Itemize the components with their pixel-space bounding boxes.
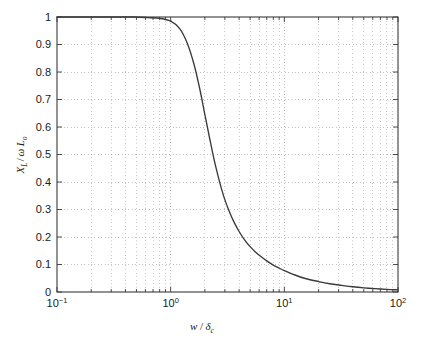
y-tick-label: 0.5 [36, 148, 51, 160]
y-tick-label: 0.1 [36, 258, 51, 270]
y-tick-label: 0 [45, 286, 51, 298]
y-tick-label: 0.4 [36, 176, 51, 188]
y-tick-label: 0.6 [36, 121, 51, 133]
y-axis-title-l-subscript: o [20, 136, 29, 140]
y-tick-label: 0.9 [36, 38, 51, 50]
y-tick-label: 1 [45, 11, 51, 23]
y-tick-label: 0.7 [36, 93, 51, 105]
y-axis-title-x-subscript: L [20, 163, 29, 168]
y-tick-label: 0.2 [36, 231, 51, 243]
y-axis-title-omega: ω [14, 149, 26, 157]
figure-background [0, 0, 424, 342]
y-tick-label: 0.3 [36, 203, 51, 215]
chart-canvas: 00.10.20.30.40.50.60.70.80.91 10−1100101… [0, 0, 424, 342]
x-axis-title-variable: w [190, 320, 198, 332]
y-axis-title-l: L [14, 140, 26, 147]
y-tick-label: 0.8 [36, 66, 51, 78]
chart-figure: 00.10.20.30.40.50.60.70.80.91 10−1100101… [0, 0, 424, 342]
